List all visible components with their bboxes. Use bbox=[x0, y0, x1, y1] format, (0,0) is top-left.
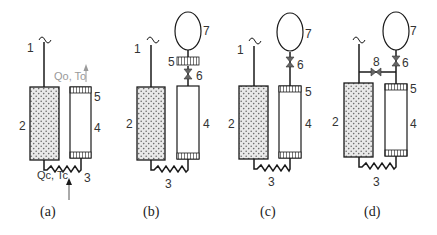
valve-icon bbox=[184, 69, 192, 79]
inlet-tilde-icon bbox=[249, 38, 261, 44]
porous-column bbox=[239, 86, 268, 159]
filter-bottom bbox=[385, 150, 407, 156]
balloon bbox=[277, 13, 303, 51]
label-3: 3 bbox=[84, 171, 91, 185]
panel-d: 2 3 4 5 6 7 8 (d) bbox=[332, 12, 417, 220]
label-3: 3 bbox=[268, 175, 275, 189]
panel-c: 1 2 3 4 5 6 7 (c) bbox=[228, 13, 312, 220]
inlet-tilde-icon bbox=[353, 37, 365, 43]
label-3: 3 bbox=[373, 175, 380, 189]
outlet-flow-label: Qo, To bbox=[54, 70, 86, 82]
label-8: 8 bbox=[373, 55, 380, 69]
label-5: 5 bbox=[168, 55, 175, 69]
inlet-tilde-icon bbox=[147, 37, 159, 43]
label-5: 5 bbox=[410, 82, 417, 96]
filter-5 bbox=[177, 57, 199, 65]
tube-column bbox=[279, 86, 301, 158]
filter-top bbox=[70, 87, 91, 93]
label-6: 6 bbox=[402, 56, 409, 70]
caption-c: (c) bbox=[260, 204, 276, 220]
label-6: 6 bbox=[297, 58, 304, 72]
valve-icon bbox=[392, 56, 400, 66]
label-5: 5 bbox=[94, 90, 101, 104]
porous-column bbox=[344, 83, 373, 157]
label-6: 6 bbox=[196, 69, 203, 83]
label-5: 5 bbox=[305, 85, 312, 99]
label-7: 7 bbox=[305, 27, 312, 41]
label-1: 1 bbox=[27, 41, 34, 55]
balloon bbox=[175, 12, 201, 50]
panel-b: 1 2 3 4 5 6 7 (b) bbox=[126, 12, 210, 220]
label-4: 4 bbox=[94, 121, 101, 135]
inlet-tilde-icon bbox=[39, 37, 51, 43]
label-7: 7 bbox=[410, 24, 417, 38]
filter-5 bbox=[279, 86, 301, 92]
tube-column bbox=[385, 84, 407, 156]
coil-tube bbox=[359, 156, 396, 169]
panel-a: 1 2 3 4 5 Qo, To Qc, Tc (a) bbox=[19, 37, 101, 220]
label-3: 3 bbox=[165, 177, 172, 191]
label-2: 2 bbox=[228, 117, 235, 131]
tube-column bbox=[70, 87, 91, 158]
coil-tube bbox=[151, 159, 188, 172]
label-2: 2 bbox=[332, 115, 339, 129]
label-1: 1 bbox=[134, 42, 141, 56]
filter-bottom bbox=[177, 153, 199, 159]
caption-b: (b) bbox=[143, 204, 160, 220]
filter-bottom bbox=[70, 152, 91, 158]
label-4: 4 bbox=[305, 117, 312, 131]
label-4: 4 bbox=[203, 117, 210, 131]
porous-column bbox=[30, 87, 59, 160]
balloon bbox=[383, 12, 409, 50]
diagram-canvas: 1 2 3 4 5 Qo, To Qc, Tc (a) 1 2 3 4 5 6 … bbox=[0, 0, 437, 235]
caption-d: (d) bbox=[364, 204, 381, 220]
label-7: 7 bbox=[203, 24, 210, 38]
bypass-valve-icon bbox=[371, 68, 381, 76]
coil-tube bbox=[254, 158, 290, 171]
porous-column bbox=[137, 87, 165, 160]
label-4: 4 bbox=[410, 117, 417, 131]
tube-column bbox=[177, 86, 199, 159]
filter-bottom bbox=[279, 152, 301, 158]
valve-icon bbox=[286, 57, 294, 67]
filter-5 bbox=[385, 84, 407, 90]
label-2: 2 bbox=[19, 119, 26, 133]
caption-a: (a) bbox=[40, 204, 56, 220]
label-1: 1 bbox=[237, 43, 244, 57]
inlet-flow-label: Qc, Tc bbox=[37, 169, 68, 181]
label-2: 2 bbox=[126, 117, 133, 131]
